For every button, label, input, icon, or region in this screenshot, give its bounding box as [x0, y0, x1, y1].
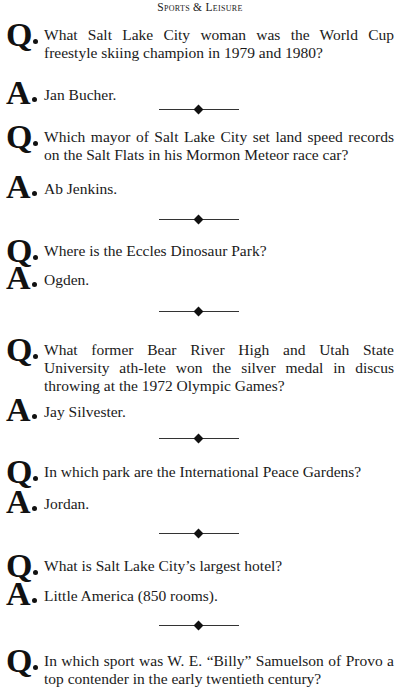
answer-text: Jordan.	[44, 487, 394, 513]
qa-item: Q What is Salt Lake City’s largest hotel…	[6, 551, 394, 575]
qa-item-answer: A Jan Bucher.	[6, 78, 394, 104]
answer: A Ab Jenkins.	[6, 172, 394, 198]
answer-text: Little America (850 rooms).	[44, 579, 394, 605]
qa-item: Q In which sport was W. E. “Billy” Samue…	[6, 646, 394, 688]
qa-item: Q In which park are the International Pe…	[6, 457, 394, 481]
divider-ornament	[159, 104, 239, 116]
question-marker: Q	[6, 122, 38, 152]
answer-marker: A	[6, 78, 37, 108]
answer: A Jay Silvester.	[6, 395, 394, 421]
page-header: Sports & Leisure	[0, 0, 400, 14]
qa-item-answer: A Ogden.	[6, 263, 394, 289]
question-marker: Q	[6, 20, 38, 50]
diamond-icon	[194, 306, 204, 316]
question-text: Where is the Eccles Dinosaur Park?	[44, 236, 394, 260]
diamond-icon	[194, 528, 204, 538]
answer-text: Jan Bucher.	[44, 78, 394, 104]
qa-item-answer: A Jordan.	[6, 487, 394, 513]
answer-marker: A	[6, 579, 37, 609]
diamond-icon	[194, 620, 204, 630]
qa-item: Q Which mayor of Salt Lake City set land…	[6, 122, 394, 164]
answer-marker: A	[6, 172, 37, 202]
question: Q What Salt Lake City woman was the Worl…	[6, 20, 394, 62]
answer-marker: A	[6, 395, 37, 425]
qa-item: Q What former Bear River High and Utah S…	[6, 335, 394, 395]
question: Q In which park are the International Pe…	[6, 457, 394, 481]
answer: A Jordan.	[6, 487, 394, 513]
question: Q In which sport was W. E. “Billy” Samue…	[6, 646, 394, 688]
diamond-icon	[194, 214, 204, 224]
divider-ornament	[159, 620, 239, 632]
qa-item-answer: A Ab Jenkins.	[6, 172, 394, 198]
qa-item-answer: A Little America (850 rooms).	[6, 579, 394, 605]
question: Q What is Salt Lake City’s largest hotel…	[6, 551, 394, 575]
diamond-icon	[194, 433, 204, 443]
question: Q What former Bear River High and Utah S…	[6, 335, 394, 395]
answer: A Little America (850 rooms).	[6, 579, 394, 605]
question-text: In which sport was W. E. “Billy” Samuels…	[44, 646, 394, 688]
question-text: What Salt Lake City woman was the World …	[44, 20, 394, 62]
qa-item: Q Where is the Eccles Dinosaur Park?	[6, 236, 394, 260]
answer-marker: A	[6, 487, 37, 517]
divider-ornament	[159, 306, 239, 318]
answer: A Ogden.	[6, 263, 394, 289]
question: Q Which mayor of Salt Lake City set land…	[6, 122, 394, 164]
diamond-icon	[194, 104, 204, 114]
answer-text: Ogden.	[44, 263, 394, 289]
question-text: What is Salt Lake City’s largest hotel?	[44, 551, 394, 575]
divider-ornament	[159, 528, 239, 540]
divider-ornament	[159, 433, 239, 445]
qa-item: Q What Salt Lake City woman was the Worl…	[6, 20, 394, 62]
answer-text: Ab Jenkins.	[44, 172, 394, 198]
qa-item-answer: A Jay Silvester.	[6, 395, 394, 421]
question-text: What former Bear River High and Utah Sta…	[44, 335, 394, 395]
divider-ornament	[159, 214, 239, 226]
answer-text: Jay Silvester.	[44, 395, 394, 421]
question-text: Which mayor of Salt Lake City set land s…	[44, 122, 394, 164]
answer-marker: A	[6, 263, 37, 293]
question-marker: Q	[6, 335, 38, 365]
question: Q Where is the Eccles Dinosaur Park?	[6, 236, 394, 260]
question-marker: Q	[6, 646, 38, 676]
question-text: In which park are the International Peac…	[44, 457, 394, 481]
answer: A Jan Bucher.	[6, 78, 394, 104]
